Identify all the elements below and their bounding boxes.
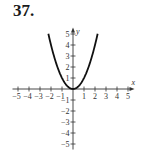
x-tick-label: 1 bbox=[82, 92, 86, 101]
y-tick-label: 1 bbox=[66, 74, 70, 83]
parabola-graph: −5−4−3−2−11234554321−1−2−3−4−5 x y bbox=[0, 0, 146, 166]
y-tick-label: −2 bbox=[61, 107, 70, 116]
y-tick-label: 3 bbox=[66, 52, 70, 61]
x-tick-label: −5 bbox=[12, 92, 21, 101]
y-tick-label: 5 bbox=[66, 30, 70, 39]
x-tick-label: 4 bbox=[115, 92, 119, 101]
x-axis-arrow-icon bbox=[130, 87, 135, 91]
x-tick-label: −2 bbox=[45, 92, 54, 101]
y-tick-label: −3 bbox=[61, 118, 70, 127]
y-tick-label: 2 bbox=[66, 63, 70, 72]
y-axis-label: y bbox=[75, 27, 80, 36]
y-tick-label: 4 bbox=[66, 41, 70, 50]
y-tick-label: −4 bbox=[61, 129, 70, 138]
x-tick-label: 3 bbox=[104, 92, 108, 101]
x-axis-label: x bbox=[131, 78, 136, 87]
x-tick-label: 2 bbox=[93, 92, 97, 101]
y-tick-label: −1 bbox=[61, 96, 70, 105]
x-tick-label: 5 bbox=[126, 92, 130, 101]
x-tick-label: −3 bbox=[34, 92, 43, 101]
x-tick-label: −4 bbox=[23, 92, 32, 101]
y-axis-arrow-icon bbox=[71, 28, 75, 33]
y-tick-label: −5 bbox=[61, 140, 70, 149]
